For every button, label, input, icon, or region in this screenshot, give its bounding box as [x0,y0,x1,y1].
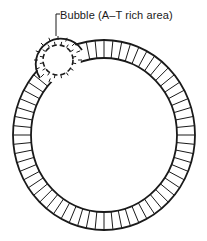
bubble-label: Bubble (A–T rich area) [60,9,173,21]
circular-dna-diagram [0,0,207,241]
